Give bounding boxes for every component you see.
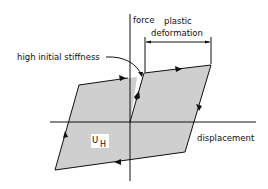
stiffness-leader bbox=[106, 57, 142, 76]
plastic-label: plastic bbox=[164, 16, 192, 26]
uh-sub-label: H bbox=[100, 140, 106, 149]
uh-main-label: U bbox=[92, 135, 98, 145]
hysteresis-diagram: force plastic deformation high initial s… bbox=[0, 0, 268, 189]
stiffness-label: high initial stiffness bbox=[17, 52, 100, 62]
force-label: force bbox=[133, 15, 154, 25]
hysteresis-area-inner bbox=[55, 65, 211, 170]
deformation-label: deformation bbox=[151, 28, 203, 38]
displacement-label: displacement bbox=[197, 133, 255, 143]
stiffness-leader-arrow-icon bbox=[138, 72, 143, 77]
